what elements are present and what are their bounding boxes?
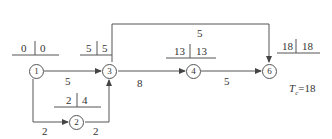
node-3: 3 [102,64,117,79]
edge-1-2-duration: 2 [42,126,48,137]
network-edges [0,0,332,139]
node-4-time-right: 13 [196,46,207,57]
node-4: 4 [186,64,201,79]
node-1: 1 [29,64,44,79]
node-3-time-left: 5 [86,43,92,54]
node-2-time-left: 2 [66,95,72,106]
node-2-time-right: 4 [82,95,88,106]
node-2: 2 [69,115,84,130]
edge-1-3-duration: 5 [65,76,71,87]
total-duration-label: Tc=18 [289,83,315,99]
edge-2-3 [85,80,109,122]
node-1-time-right: 0 [40,43,46,54]
edge-3-4-duration: 8 [137,78,143,89]
node-6-time-right: 18 [302,41,313,52]
edge-1-2 [33,79,68,122]
node-6: 6 [262,64,277,79]
node-1-time-left: 0 [21,43,27,54]
edge-3-6-duration: 5 [197,28,203,39]
node-6-time-left: 18 [282,41,293,52]
edge-4-6-duration: 5 [224,76,230,87]
node-4-time-left: 13 [174,46,185,57]
edge-2-3-duration: 2 [93,126,99,137]
node-3-time-right: 5 [102,43,108,54]
